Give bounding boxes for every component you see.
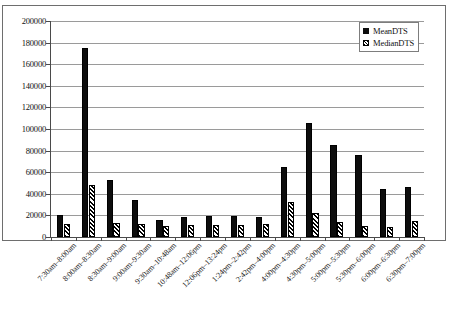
y-axis-tick-label: 20000 [26,210,46,220]
bar-mean [306,123,312,237]
bar-median [362,226,368,237]
bar-median [263,224,269,237]
y-axis-tick-label: 140000 [22,81,46,91]
bar-median [188,225,194,237]
hatched-square-icon [363,40,369,46]
y-axis-tick [46,86,50,87]
bar-median [163,226,169,237]
bar-mean [231,216,237,237]
bar-median [138,224,144,238]
gridline [51,86,424,87]
chart-legend: MeanDTS MedianDTS [359,22,419,52]
legend-item-mean: MeanDTS [363,25,414,37]
bar-median [238,225,244,237]
y-axis-tick-label: 160000 [22,59,46,69]
gridline [51,107,424,108]
bar-mean [82,48,88,237]
legend-item-median: MedianDTS [363,37,414,49]
y-axis-tick-label: 80000 [26,146,46,156]
bar-mean [107,180,113,237]
y-axis-tick [46,215,50,216]
bar-mean [181,217,187,237]
y-axis-tick [46,194,50,195]
bar-mean [206,216,212,237]
legend-label-median: MedianDTS [373,38,414,48]
y-axis-tick-label: 40000 [26,189,46,199]
y-axis-tick-label: 100000 [22,124,46,134]
bar-median [312,213,318,237]
bar-mean [405,187,411,237]
y-axis-tick-label: 180000 [22,38,46,48]
y-axis-labels: 0200004000060000800001000001200001400001… [0,21,46,238]
bar-median [64,224,70,237]
y-axis-tick [46,129,50,130]
bar-mean [330,145,336,237]
bar-median [213,225,219,237]
gridline [51,64,424,65]
solid-square-icon [363,28,369,34]
bar-median [113,223,119,237]
bar-median [89,185,95,237]
y-axis-tick [46,43,50,44]
bar-mean [156,220,162,237]
y-axis-tick-label: 60000 [26,167,46,177]
bar-chart: 0200004000060000800001000001200001400001… [0,0,451,318]
y-axis-tick [46,21,50,22]
bar-mean [256,217,262,237]
legend-label-mean: MeanDTS [373,26,408,36]
bar-median [288,202,294,237]
bar-median [412,221,418,237]
bar-mean [380,189,386,237]
bar-mean [355,155,361,237]
gridline [51,129,424,130]
bar-mean [281,167,287,237]
y-axis-tick [46,172,50,173]
plot-area [50,21,424,238]
bar-mean [132,200,138,237]
y-axis-tick [46,107,50,108]
gridline [51,172,424,173]
gridline [51,151,424,152]
y-axis-tick [46,64,50,65]
x-axis-labels: 7:30am–8:00am8:00am–8:30am8:30am–9:00am9… [50,241,424,318]
y-axis-tick [46,151,50,152]
bar-median [387,227,393,237]
x-axis-tick [424,237,425,241]
bar-mean [57,215,63,237]
y-axis-tick [46,237,50,238]
y-axis-tick-label: 120000 [22,102,46,112]
x-axis-tick-label: 10:48am–12:06pm [155,241,203,289]
y-axis-tick-label: 200000 [22,16,46,26]
bar-median [337,222,343,237]
